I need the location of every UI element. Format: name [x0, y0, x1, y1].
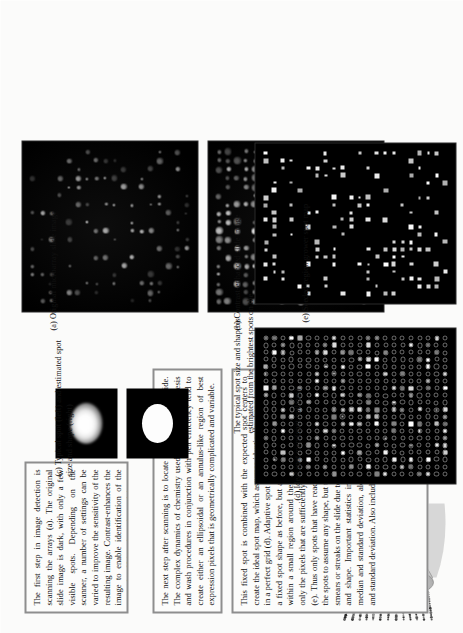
figure-d-caption: (d) Ideal spot map (spot outlines)	[292, 388, 301, 500]
figure-d-ideal-spot-map	[255, 328, 455, 483]
figure-e-caption: (e) Seeded-region grower spot map	[300, 203, 309, 322]
document-page: The first step in image detection is sca…	[0, 0, 463, 633]
figure-a-caption: (a) Original microarray slide image	[48, 211, 57, 330]
figure-c-estimated-spot	[126, 388, 188, 458]
body-paragraph-1-text: The first step in image detection is sca…	[31, 469, 128, 605]
figure-e-seeded-region-spot-map	[255, 143, 455, 303]
estimated-spot-glyph	[142, 403, 173, 442]
body-paragraph-1: The first step in image detection is sca…	[24, 461, 128, 613]
typical-spot-glyph	[70, 403, 102, 444]
figure-c-caption: (c) Typical spot (left) and estimated sp…	[52, 326, 74, 476]
